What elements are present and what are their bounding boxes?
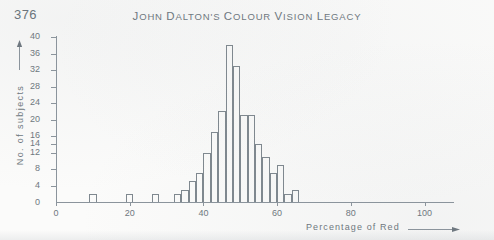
histogram-bar	[152, 194, 159, 202]
histogram-bar	[218, 111, 225, 202]
histogram-bar	[226, 45, 233, 202]
histogram-bar	[284, 194, 291, 202]
x-axis-arrow-icon	[408, 226, 460, 233]
histogram-bars	[0, 0, 494, 240]
scanned-page: 376 JOHN DALTON'S COLOUR VISION LEGACY 4…	[0, 0, 494, 240]
histogram-bar	[262, 157, 269, 202]
histogram-bar	[255, 144, 262, 202]
y-axis-title: No. of subjects	[15, 65, 25, 185]
histogram-bar	[203, 153, 210, 203]
histogram-bar	[89, 194, 96, 202]
histogram-bar	[181, 190, 188, 202]
histogram-bar	[196, 173, 203, 202]
histogram-bar	[233, 66, 240, 202]
histogram-bar	[211, 132, 218, 202]
histogram-bar	[126, 194, 133, 202]
histogram-bar	[270, 173, 277, 202]
histogram-bar	[248, 115, 255, 202]
histogram-bar	[174, 194, 181, 202]
histogram-bar	[189, 181, 196, 202]
histogram-bar	[240, 115, 247, 202]
histogram-bar	[292, 190, 299, 202]
histogram-chart: 481214162024283236400 020406080100 No. o…	[0, 0, 494, 240]
histogram-bar	[277, 165, 284, 202]
x-axis-title: Percentage of Red	[306, 222, 400, 232]
